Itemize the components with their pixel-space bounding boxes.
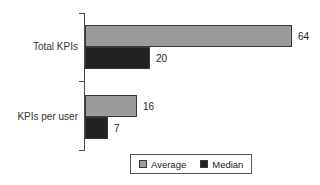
axis-tick-middle — [79, 81, 85, 82]
value-label-median-total-kpis: 20 — [156, 53, 167, 64]
legend-item-median: Median — [200, 159, 243, 170]
legend-swatch-median — [200, 160, 208, 168]
bar-median-total-kpis — [85, 47, 150, 69]
axis-tick-top — [79, 13, 85, 14]
axis-tick-bottom — [79, 150, 85, 151]
value-label-median-kpis-per-user: 7 — [114, 123, 120, 134]
legend-label-average: Average — [151, 159, 186, 170]
bar-row: 20 — [85, 47, 309, 69]
bar-row: 7 — [85, 117, 154, 139]
bar-median-kpis-per-user — [85, 117, 108, 139]
bar-average-kpis-per-user — [85, 95, 137, 117]
bar-chart: Total KPIs KPIs per user 64 20 16 7 Aver… — [0, 0, 320, 185]
bar-row: 64 — [85, 25, 309, 47]
legend-item-average: Average — [139, 159, 186, 170]
value-label-average-total-kpis: 64 — [298, 31, 309, 42]
legend-swatch-average — [139, 160, 147, 168]
bar-group-total-kpis: 64 20 — [85, 25, 309, 69]
bar-average-total-kpis — [85, 25, 292, 47]
bar-row: 16 — [85, 95, 154, 117]
bar-group-kpis-per-user: 16 7 — [85, 95, 154, 139]
legend: Average Median — [130, 154, 252, 174]
category-label-total-kpis: Total KPIs — [0, 40, 78, 54]
value-label-average-kpis-per-user: 16 — [143, 101, 154, 112]
category-label-kpis-per-user: KPIs per user — [0, 110, 78, 124]
legend-label-median: Median — [212, 159, 243, 170]
